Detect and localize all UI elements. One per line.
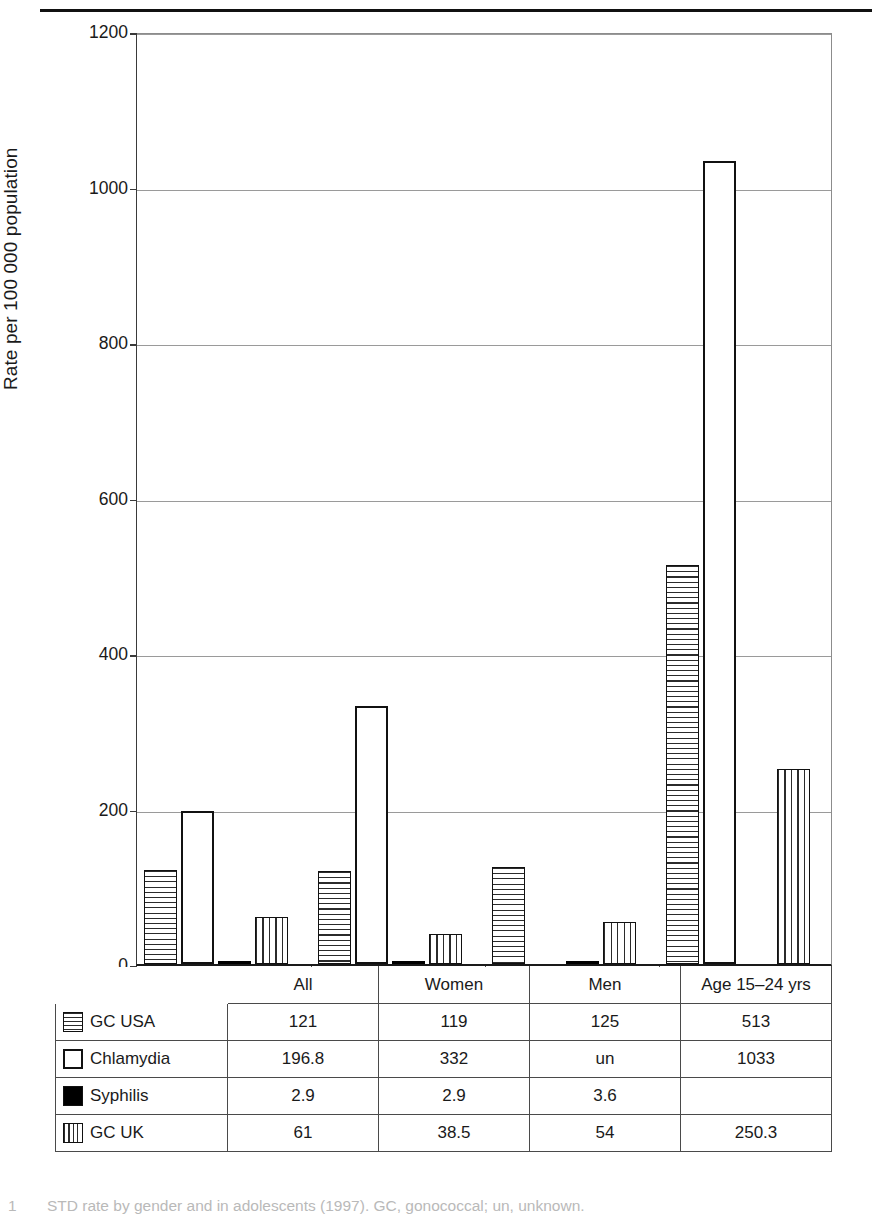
table-row: GC USA121119125513 xyxy=(56,1004,832,1041)
y-tick-label-200: 200 xyxy=(58,802,128,820)
table-column-header-age-15-24-yrs: Age 15–24 yrs xyxy=(681,967,832,1004)
y-axis-title: Rate per 100 000 population xyxy=(0,30,22,390)
table-column-header-all: All xyxy=(228,967,379,1004)
bar-syphilis-men xyxy=(566,961,599,964)
table-corner-cell xyxy=(56,967,228,1004)
y-tick-mark-200 xyxy=(130,811,137,813)
legend-swatch-syphilis-icon xyxy=(63,1086,83,1106)
table-header-row: AllWomenMenAge 15–24 yrs xyxy=(56,967,832,1004)
legend-swatch-chlamydia-icon xyxy=(63,1049,83,1069)
legend-label: Chlamydia xyxy=(90,1049,170,1068)
legend-swatch-gc-usa-icon xyxy=(63,1012,83,1032)
table-cell xyxy=(681,1078,832,1115)
legend-row-syphilis: Syphilis xyxy=(56,1078,228,1115)
table-cell: 250.3 xyxy=(681,1115,832,1152)
table-cell: 61 xyxy=(228,1115,379,1152)
figure-caption: 1 STD rate by gender and in adolescents … xyxy=(8,1197,868,1216)
y-axis-tick-labels: 020040060080010001200 xyxy=(54,33,128,966)
bar-gc-usa-women xyxy=(318,871,351,964)
y-tick-mark-800 xyxy=(130,344,137,346)
plot-area xyxy=(136,33,832,966)
data-legend-table: AllWomenMenAge 15–24 yrsGC USA1211191255… xyxy=(55,966,832,1152)
bar-syphilis-all xyxy=(218,961,251,964)
bar-chlamydia-women xyxy=(355,706,388,964)
plot-inner xyxy=(137,34,831,964)
table-row: Syphilis2.92.93.6 xyxy=(56,1078,832,1115)
table-cell: 2.9 xyxy=(228,1078,379,1115)
table-cell: 3.6 xyxy=(530,1078,681,1115)
table-row: GC UK6138.554250.3 xyxy=(56,1115,832,1152)
legend-label: Syphilis xyxy=(90,1086,149,1105)
y-tick-mark-400 xyxy=(130,655,137,657)
table-cell: 2.9 xyxy=(379,1078,530,1115)
table-column-header-women: Women xyxy=(379,967,530,1004)
bar-gc-usa-men xyxy=(492,867,525,964)
bar-gc-uk-all xyxy=(255,917,288,964)
y-tick-mark-600 xyxy=(130,500,137,502)
bar-chlamydia-age-15-24-yrs xyxy=(703,161,736,964)
bar-gc-uk-women xyxy=(429,934,462,964)
table-cell: 332 xyxy=(379,1041,530,1078)
y-tick-mark-1000 xyxy=(130,189,137,191)
legend-swatch-gc-uk-icon xyxy=(63,1123,83,1143)
bar-gc-usa-all xyxy=(144,870,177,964)
table-cell: 125 xyxy=(530,1004,681,1041)
table-cell: 121 xyxy=(228,1004,379,1041)
caption-text: STD rate by gender and in adolescents (1… xyxy=(47,1197,585,1214)
table-cell: 196.8 xyxy=(228,1041,379,1078)
bar-gc-uk-men xyxy=(603,922,636,964)
y-tick-label-1000: 1000 xyxy=(58,180,128,198)
y-tick-mark-1200 xyxy=(130,33,137,35)
table-cell: 38.5 xyxy=(379,1115,530,1152)
caption-number: 1 xyxy=(8,1197,17,1214)
y-tick-label-1200: 1200 xyxy=(58,24,128,42)
legend-row-chlamydia: Chlamydia xyxy=(56,1041,228,1078)
table-row: Chlamydia196.8332un1033 xyxy=(56,1041,832,1078)
bar-gc-usa-age-15-24-yrs xyxy=(666,565,699,964)
table-cell: 119 xyxy=(379,1004,530,1041)
y-tick-label-400: 400 xyxy=(58,646,128,664)
legend-label: GC UK xyxy=(90,1123,144,1142)
table-cell: 1033 xyxy=(681,1041,832,1078)
y-tick-label-800: 800 xyxy=(58,335,128,353)
bar-chlamydia-all xyxy=(181,811,214,964)
gridline-1200 xyxy=(137,34,831,35)
figure-std-rates: Rate per 100 000 population 020040060080… xyxy=(0,0,872,1216)
table-cell: 513 xyxy=(681,1004,832,1041)
table-cell: 54 xyxy=(530,1115,681,1152)
legend-row-gc-usa: GC USA xyxy=(56,1004,228,1041)
table-column-header-men: Men xyxy=(530,967,681,1004)
data-table-body: AllWomenMenAge 15–24 yrsGC USA1211191255… xyxy=(56,967,832,1152)
bar-syphilis-women xyxy=(392,961,425,964)
legend-row-gc-uk: GC UK xyxy=(56,1115,228,1152)
bar-gc-uk-age-15-24-yrs xyxy=(777,769,810,964)
y-tick-label-600: 600 xyxy=(58,491,128,509)
table-cell: un xyxy=(530,1041,681,1078)
legend-label: GC USA xyxy=(90,1012,155,1031)
